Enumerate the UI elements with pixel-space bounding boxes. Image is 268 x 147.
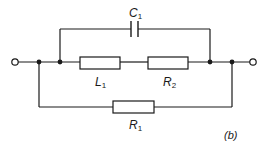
capacitor-c1-icon [131,21,138,37]
junction-dot-2 [58,60,63,65]
label-r2: R2 [163,75,177,90]
circuit-svg: C1 L1 R2 R1 (b) [0,0,268,147]
junction-dot-4 [230,60,235,65]
left-terminal-icon [12,59,18,65]
resistor-r1-icon [113,101,154,113]
label-l1: L1 [95,75,107,90]
junction-dot-1 [37,60,42,65]
junction-dot-3 [208,60,213,65]
label-c1: C1 [129,6,143,21]
right-terminal-icon [250,59,256,65]
inductor-l1-icon [80,57,120,69]
figure-label: (b) [224,129,238,141]
label-r1: R1 [129,118,143,133]
resistor-r2-icon [148,57,188,69]
circuit-diagram: C1 L1 R2 R1 (b) [0,0,268,147]
bottom-branch [39,62,232,107]
top-branch [60,21,210,62]
